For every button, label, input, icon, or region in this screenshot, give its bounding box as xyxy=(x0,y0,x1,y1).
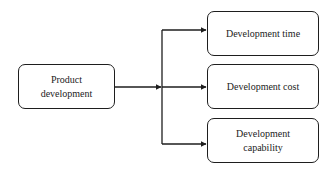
node-label-line1: Product xyxy=(41,73,93,87)
node-label-line1: Development time xyxy=(226,27,300,41)
node-development-cost: Development cost xyxy=(207,64,319,109)
node-label-line1: Development xyxy=(236,127,290,141)
node-development-capability: Development capability xyxy=(207,118,319,163)
node-product-development: Product development xyxy=(18,64,115,109)
node-label-line1: Development cost xyxy=(227,80,299,94)
node-label-line2: capability xyxy=(236,141,290,155)
node-development-time: Development time xyxy=(207,11,319,56)
node-label-line2: development xyxy=(41,87,93,101)
